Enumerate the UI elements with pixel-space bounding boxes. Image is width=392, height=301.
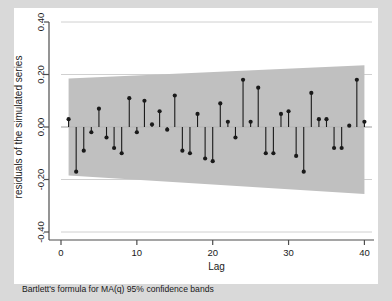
acf-marker bbox=[286, 109, 290, 113]
y-tick-label-2: 0.00 bbox=[35, 118, 46, 137]
acf-marker bbox=[104, 135, 108, 139]
acf-marker bbox=[203, 156, 207, 160]
acf-marker bbox=[233, 135, 237, 139]
acf-marker bbox=[211, 159, 215, 163]
acf-marker bbox=[120, 151, 124, 155]
y-tick-label-1: -0.20 bbox=[35, 169, 46, 191]
acf-marker bbox=[173, 93, 177, 97]
acf-marker bbox=[362, 120, 366, 124]
acf-marker bbox=[309, 91, 313, 95]
acf-marker bbox=[340, 146, 344, 150]
y-axis-title: residuals of the simulated series bbox=[13, 56, 24, 199]
confidence-band bbox=[69, 65, 365, 194]
acf-marker bbox=[82, 149, 86, 153]
x-tick-label-4: 40 bbox=[359, 247, 370, 258]
acf-marker bbox=[127, 96, 131, 100]
acf-marker bbox=[135, 130, 139, 134]
x-axis-title: Lag bbox=[208, 261, 225, 272]
acf-chart: -0.40-0.200.000.200.40010203040Lagresidu… bbox=[0, 0, 392, 301]
acf-marker bbox=[279, 112, 283, 116]
x-tick-label-1: 10 bbox=[132, 247, 143, 258]
y-tick-label-0: -0.40 bbox=[35, 221, 46, 243]
acf-marker bbox=[355, 78, 359, 82]
acf-marker bbox=[112, 146, 116, 150]
acf-marker bbox=[294, 154, 298, 158]
acf-marker bbox=[256, 86, 260, 90]
acf-marker bbox=[74, 170, 78, 174]
acf-marker bbox=[150, 122, 154, 126]
acf-marker bbox=[332, 146, 336, 150]
acf-marker bbox=[142, 99, 146, 103]
x-tick-label-3: 30 bbox=[283, 247, 294, 258]
figure-canvas: -0.40-0.200.000.200.40010203040Lagresidu… bbox=[0, 0, 392, 301]
acf-marker bbox=[302, 170, 306, 174]
acf-marker bbox=[180, 149, 184, 153]
acf-marker bbox=[324, 117, 328, 121]
acf-marker bbox=[264, 151, 268, 155]
acf-marker bbox=[195, 112, 199, 116]
acf-marker bbox=[66, 117, 70, 121]
acf-marker bbox=[347, 124, 351, 128]
x-tick-label-2: 20 bbox=[207, 247, 218, 258]
acf-marker bbox=[89, 130, 93, 134]
acf-marker bbox=[97, 107, 101, 111]
chart-note: Bartlett's formula for MA(q) 95% confide… bbox=[22, 284, 214, 294]
y-tick-label-3: 0.20 bbox=[35, 65, 46, 84]
acf-marker bbox=[317, 117, 321, 121]
acf-marker bbox=[226, 120, 230, 124]
acf-marker bbox=[188, 151, 192, 155]
acf-marker bbox=[249, 120, 253, 124]
acf-marker bbox=[241, 78, 245, 82]
acf-marker bbox=[218, 101, 222, 105]
acf-marker bbox=[158, 109, 162, 113]
y-tick-label-4: 0.40 bbox=[35, 13, 46, 32]
acf-marker bbox=[271, 151, 275, 155]
x-tick-label-0: 0 bbox=[58, 247, 63, 258]
acf-marker bbox=[165, 128, 169, 132]
